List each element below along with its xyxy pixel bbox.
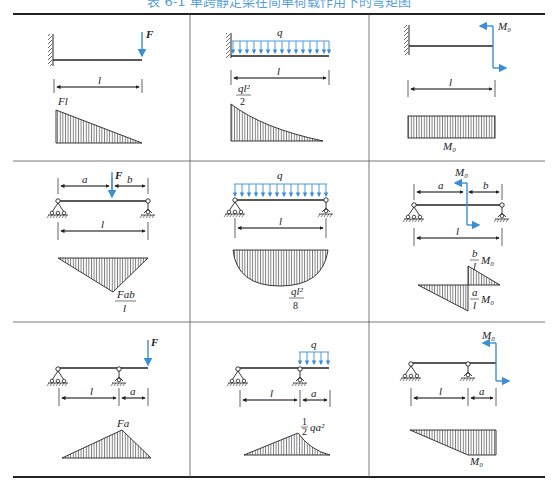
cell-simple-point-load: a b F l Fab l [47,169,155,314]
moment-diagram [56,110,142,143]
moment-label-top-num: b [472,247,478,259]
cell-simple-interior-moment: M₀ a b l b l M₀ a l M₀ [403,166,509,311]
dim-label-a: a [130,385,136,397]
span-label: l [279,215,282,227]
distributed-load-icon [299,352,329,364]
distributed-load-icon [232,41,329,53]
moment-label-bot-den: l [473,299,476,311]
load-label: M₀ [481,329,495,341]
pin-support-icon [47,367,68,386]
cell-cantilever-end-moment: M₀ l M₀ [404,20,511,152]
span-label: l [277,65,280,77]
dim-label-l: l [439,385,442,397]
moment-label-bot-suffix: M₀ [480,293,494,305]
moment-label-denominator: l [123,302,126,314]
moment-label-numerator: ql² [291,285,304,297]
moment-label: Fa [116,417,130,429]
moment-label-top-den: l [473,260,476,272]
moment-label-bot-num: a [472,286,478,298]
moment-diagram [62,430,151,458]
moment-diagram [58,258,148,292]
span-label: l [101,218,104,230]
moment-diagram [244,433,330,455]
load-label: q [277,169,283,181]
load-label: M₀ [497,20,511,32]
cell-cantilever-uniform-load: q l ql² 2 [226,26,329,141]
beam-moment-table: F l Fl q [0,0,558,490]
moment-diagram [410,430,496,455]
span-label: l [449,76,452,88]
dim-label-l: l [270,387,273,399]
moment-label-frac-den: 2 [302,426,307,437]
moment-label-numerator: Fab [116,288,135,300]
distributed-load-icon [234,184,327,196]
fixed-wall-icon [404,25,408,55]
moment-label-suffix: qa² [310,421,325,433]
pin-support-icon [227,367,248,386]
couple-moment-icon [480,26,506,68]
cell-cantilever-point-load: F l Fl [48,28,154,143]
load-label: q [311,338,317,350]
roller-support-icon [460,362,475,381]
cell-overhang-uniform-load: q l a 1 2 qa² [227,338,330,455]
fixed-wall-icon [226,33,230,58]
dim-label-a: a [311,387,317,399]
load-label: M₀ [454,166,468,178]
span-label: l [456,225,459,237]
moment-diagram [233,250,328,286]
cell-overhang-end-moment: M₀ l a M₀ [400,329,509,467]
dim-label-a: a [479,385,485,397]
span-label: l [98,74,101,86]
moment-diagram-negative [418,285,468,311]
moment-label-denominator: 8 [293,300,298,311]
dim-label-l: l [90,385,93,397]
load-label: F [114,169,123,181]
moment-label-numerator: ql² [238,82,251,94]
cell-simple-uniform-load: q l ql² 8 [224,169,333,311]
load-label: q [277,26,283,38]
moment-diagram [231,104,323,141]
fixed-wall-icon [48,34,52,66]
moment-label: Fl [57,95,68,107]
couple-moment-icon [483,343,509,381]
moment-label: M₀ [469,455,483,467]
dim-label-b: b [127,173,133,185]
roller-support-icon [111,367,126,386]
moment-diagram [408,116,495,138]
moment-label: M₀ [442,140,456,152]
load-label: F [145,28,154,40]
dim-label-a: a [82,173,88,185]
couple-moment-icon [455,183,479,225]
roller-support-icon [292,367,307,386]
pin-support-icon [400,362,421,381]
moment-label-top-suffix: M₀ [480,254,494,266]
load-label: F [150,336,159,348]
cell-overhang-point-load: F l a Fa [47,336,159,458]
moment-label-denominator: 2 [240,96,245,107]
dim-label-a: a [438,179,444,191]
dim-label-b: b [483,179,489,191]
table-grid [13,14,545,477]
